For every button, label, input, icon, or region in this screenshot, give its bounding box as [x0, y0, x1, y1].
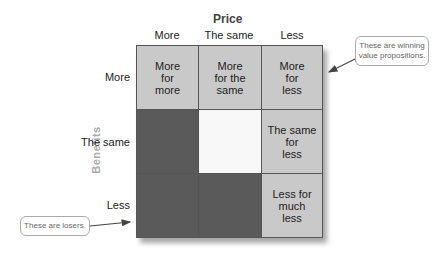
arrow-icon [0, 0, 448, 254]
